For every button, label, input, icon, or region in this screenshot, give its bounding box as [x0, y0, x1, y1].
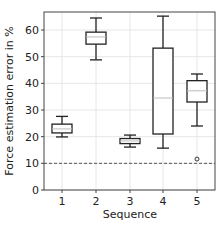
y-tick-label: 0: [32, 184, 39, 197]
x-axis-label: Sequence: [103, 208, 157, 221]
y-tick-label: 40: [25, 77, 39, 90]
y-tick-label: 10: [25, 157, 39, 170]
x-tick-label: 3: [127, 195, 134, 208]
y-tick-label: 60: [25, 24, 39, 37]
x-axis-ticks: 12345: [59, 190, 201, 208]
x-tick-label: 4: [160, 195, 167, 208]
box-1: [52, 116, 72, 137]
box-4: [153, 16, 173, 148]
iqr-box: [153, 48, 173, 134]
y-tick-label: 20: [25, 131, 39, 144]
y-tick-label: 30: [25, 104, 39, 117]
box-2: [86, 18, 106, 60]
x-tick-label: 1: [59, 195, 66, 208]
x-tick-label: 2: [93, 195, 100, 208]
boxplot-chart: 0102030405060 12345 Sequence Force estim…: [0, 0, 224, 227]
y-tick-label: 50: [25, 51, 39, 64]
iqr-box: [86, 32, 106, 44]
y-axis-label: Force estimation error in %: [3, 26, 16, 175]
iqr-box: [187, 81, 207, 102]
x-tick-label: 5: [194, 195, 201, 208]
y-axis-ticks: 0102030405060: [25, 24, 44, 197]
